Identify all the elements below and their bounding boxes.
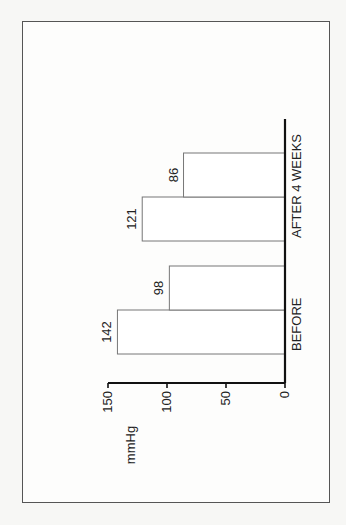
bar-value-label: 142 <box>99 321 114 343</box>
y-tick-label: 50 <box>218 391 233 405</box>
bar-value-label: 98 <box>151 281 166 295</box>
y-tick-label: 0 <box>277 391 292 398</box>
y-axis-label: mmHg <box>123 426 138 464</box>
bar-chart: 1429812186 050100150 mmHg BEFOREAFTER 4 … <box>0 0 346 525</box>
category-label: AFTER 4 WEEKS <box>289 134 304 238</box>
y-tick-label: 150 <box>100 391 115 413</box>
bar <box>169 266 285 310</box>
bar <box>117 310 285 354</box>
bar-value-label: 121 <box>124 208 139 230</box>
y-tick-label: 100 <box>159 391 174 413</box>
bar <box>184 153 285 197</box>
bar <box>142 197 285 241</box>
bar-value-label: 86 <box>166 168 181 182</box>
category-label: BEFORE <box>289 297 304 351</box>
